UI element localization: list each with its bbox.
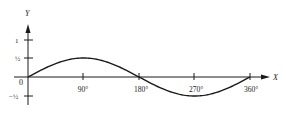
x-tick-label-180: 180° [134, 85, 148, 94]
sine-wave-chart: Y X 1 ½ −½ 0 90° 180° 270° 360° [0, 0, 285, 120]
x-tick-label-270: 270° [189, 85, 203, 94]
y-tick-label-half: ½ [15, 55, 20, 63]
y-axis-arrow-icon [26, 24, 31, 33]
x-tick-label-360: 360° [244, 85, 258, 94]
x-axis-arrow-icon [261, 75, 270, 80]
y-tick-label-1: 1 [15, 37, 19, 45]
origin-label: 0 [19, 78, 23, 87]
x-axis-label: X [272, 73, 279, 82]
chart-canvas: Y X 1 ½ −½ 0 90° 180° 270° 360° [0, 0, 285, 120]
y-tick-label-neg-half: −½ [9, 93, 18, 101]
y-axis-label: Y [25, 9, 31, 18]
x-tick-label-90: 90° [78, 85, 89, 94]
